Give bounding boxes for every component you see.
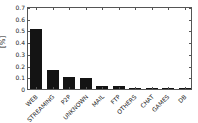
y-tick-label-0.3: 0.3	[15, 51, 25, 58]
x-axis-tick-top	[152, 8, 153, 10]
x-axis-tick-top	[119, 8, 120, 10]
y-axis-tick	[28, 78, 30, 79]
y-axis-tick	[28, 43, 30, 44]
x-tick-label-ftp: FTP	[109, 93, 121, 105]
x-tick-label-mail: MAIL	[90, 93, 105, 108]
x-axis-tick-top	[135, 8, 136, 10]
y-axis-tick-right	[189, 67, 191, 68]
y-tick-label-0.1: 0.1	[15, 74, 25, 81]
y-tick-label-0: 0	[21, 86, 25, 93]
x-axis-tick	[102, 87, 103, 89]
x-axis-tick-top	[36, 8, 37, 10]
x-axis-tick-top	[53, 8, 54, 10]
x-axis-tick-top	[69, 8, 70, 10]
x-axis-tick	[53, 87, 54, 89]
x-tick-label-db: DB	[177, 93, 188, 104]
y-axis-tick-right	[189, 78, 191, 79]
y-axis-tick-right	[189, 89, 191, 90]
x-axis-tick	[152, 87, 153, 89]
y-axis-tick	[28, 31, 30, 32]
x-axis-tick	[36, 87, 37, 89]
bar-chart-figure: [%] WEBSTREAMINGP2PUNKNOWNMAILFTPOTHERSC…	[0, 0, 198, 123]
x-axis-tick-top	[102, 8, 103, 10]
x-axis-tick-top	[86, 8, 87, 10]
y-axis-tick	[28, 55, 30, 56]
y-tick-label-0.7: 0.7	[15, 4, 25, 11]
y-axis-tick-right	[189, 43, 191, 44]
y-axis-tick	[28, 20, 30, 21]
y-axis-label: [%]	[0, 36, 7, 48]
y-axis-tick	[28, 67, 30, 68]
y-tick-label-0.5: 0.5	[15, 27, 25, 34]
bar-web	[30, 29, 42, 89]
x-tick-label-p2p: P2P	[59, 93, 72, 106]
x-axis-tick	[135, 87, 136, 89]
plot-area	[27, 7, 192, 90]
y-tick-label-0.6: 0.6	[15, 16, 25, 23]
x-axis-tick	[119, 87, 120, 89]
x-axis-tick-top	[185, 8, 186, 10]
x-axis-tick	[86, 87, 87, 89]
y-axis-tick-right	[189, 55, 191, 56]
y-tick-label-0.4: 0.4	[15, 39, 25, 46]
y-axis-tick	[28, 8, 30, 9]
y-tick-label-0.2: 0.2	[15, 63, 25, 70]
x-axis-tick	[185, 87, 186, 89]
x-axis-tick	[69, 87, 70, 89]
y-axis-tick-right	[189, 8, 191, 9]
y-axis-tick	[28, 89, 30, 90]
x-axis-tick-top	[168, 8, 169, 10]
y-axis-tick-right	[189, 20, 191, 21]
y-axis-tick-right	[189, 31, 191, 32]
x-axis-tick	[168, 87, 169, 89]
